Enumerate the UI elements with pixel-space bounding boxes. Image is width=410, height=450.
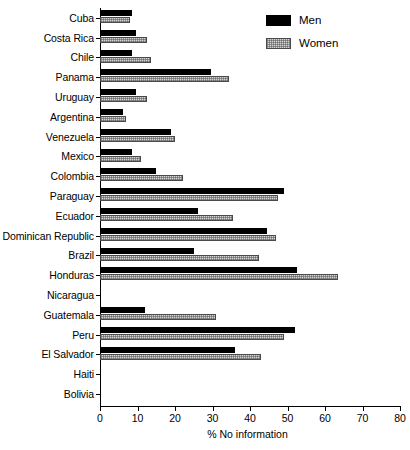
x-axis-tick-label: 40 (244, 412, 256, 424)
bar-women (100, 195, 278, 201)
chart-row: Ecuador (100, 206, 400, 226)
bar-women (100, 175, 183, 181)
bar-men (100, 129, 171, 135)
category-label: Colombia (50, 171, 94, 182)
x-axis-tick (100, 406, 101, 411)
legend-item-women: Women (266, 37, 338, 49)
y-axis-tick (96, 374, 100, 375)
y-axis-tick (96, 394, 100, 395)
category-label: El Salvador (41, 349, 94, 360)
bar-men (100, 307, 145, 313)
x-axis-tick (250, 406, 251, 411)
bar-women (100, 116, 126, 122)
category-label: Nicaragua (47, 290, 94, 301)
bar-women (100, 334, 284, 340)
category-label: Argentina (50, 111, 94, 122)
bar-women (100, 274, 338, 280)
category-label: Paraguay (50, 191, 94, 202)
legend-label-men: Men (299, 14, 321, 26)
category-label: Ecuador (56, 210, 94, 221)
category-label: Dominican Republic (2, 230, 94, 241)
bar-men (100, 327, 295, 333)
chart-row: Peru (100, 325, 400, 345)
bar-men (100, 30, 136, 36)
bar-men (100, 228, 267, 234)
category-label: Haiti (73, 369, 94, 380)
bar-women (100, 96, 147, 102)
bar-men (100, 149, 132, 155)
chart-row: Dominican Republic (100, 226, 400, 246)
chart-row: Nicaragua (100, 285, 400, 305)
chart-row: Brazil (100, 246, 400, 266)
category-label: Uruguay (55, 92, 94, 103)
bar-men (100, 188, 284, 194)
bar-women (100, 215, 233, 221)
plot-area: CubaCosta RicaChilePanamaUruguayArgentin… (100, 8, 400, 404)
legend-label-women: Women (299, 37, 338, 49)
bar-men (100, 168, 156, 174)
legend-swatch-women-icon (266, 38, 291, 49)
category-label: Costa Rica (44, 32, 94, 43)
category-label: Honduras (49, 270, 94, 281)
category-label: Chile (71, 52, 94, 63)
bar-women (100, 354, 261, 360)
x-axis-tick (138, 406, 139, 411)
x-axis-tick (288, 406, 289, 411)
x-axis-tick-label: 70 (357, 412, 369, 424)
bar-men (100, 10, 132, 16)
category-label: Guatemala (44, 309, 94, 320)
x-axis-tick (363, 406, 364, 411)
bar-men (100, 50, 132, 56)
bar-men (100, 347, 235, 353)
chart-row: Bolivia (100, 384, 400, 404)
bar-women (100, 57, 151, 63)
chart-row: Uruguay (100, 87, 400, 107)
bar-women (100, 17, 130, 23)
x-axis-title-label: % No information (207, 428, 288, 440)
chart-row: El Salvador (100, 345, 400, 365)
x-axis-tick-label: 50 (282, 412, 294, 424)
chart-row: Costa Rica (100, 28, 400, 48)
x-axis-tick-label: 0 (97, 412, 103, 424)
chart-row: Cuba (100, 8, 400, 28)
bar-men (100, 248, 194, 254)
bar-women (100, 314, 216, 320)
bar-men (100, 89, 136, 95)
category-label: Cuba (69, 12, 94, 23)
legend-swatch-men-icon (266, 15, 291, 26)
bar-men (100, 109, 123, 115)
bar-women (100, 136, 175, 142)
category-label: Bolivia (64, 389, 94, 400)
bar-women (100, 37, 147, 43)
chart-row: Honduras (100, 265, 400, 285)
chart-row: Colombia (100, 166, 400, 186)
chart-row: Argentina (100, 107, 400, 127)
chart-row: Venezuela (100, 127, 400, 147)
bar-women (100, 156, 141, 162)
x-axis-tick-label: 20 (169, 412, 181, 424)
x-axis-tick-label: 60 (319, 412, 331, 424)
bar-men (100, 208, 198, 214)
bar-women (100, 235, 276, 241)
x-axis-tick (213, 406, 214, 411)
chart-row: Panama (100, 67, 400, 87)
x-axis-title: % No information (0, 428, 410, 440)
x-axis-tick (175, 406, 176, 411)
x-axis-tick (400, 406, 401, 411)
x-axis-tick-label: 30 (207, 412, 219, 424)
bar-chart: CubaCosta RicaChilePanamaUruguayArgentin… (0, 0, 410, 450)
x-axis-tick-label: 80 (394, 412, 406, 424)
x-axis-tick-label: 10 (132, 412, 144, 424)
bar-women (100, 255, 259, 261)
chart-row: Haiti (100, 364, 400, 384)
chart-row: Guatemala (100, 305, 400, 325)
chart-row: Paraguay (100, 186, 400, 206)
category-label: Mexico (61, 151, 94, 162)
category-label: Peru (72, 329, 94, 340)
chart-row: Mexico (100, 147, 400, 167)
bar-men (100, 69, 211, 75)
category-label: Brazil (68, 250, 94, 261)
y-axis-tick (96, 295, 100, 296)
category-label: Panama (55, 72, 94, 83)
chart-row: Chile (100, 48, 400, 68)
